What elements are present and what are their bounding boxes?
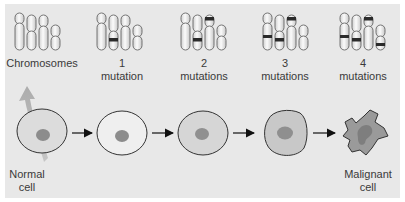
label-4-mutations: 4 mutations [323, 57, 403, 83]
label-normal-cell: Normal cell [2, 168, 52, 194]
label-3-mutations: 3 mutations [245, 57, 325, 83]
cell-stage-2 [178, 111, 228, 155]
chromosome-set-normal [15, 13, 60, 50]
chromosome-set-3-mutations [263, 13, 308, 50]
chromosome-set-1-mutation [97, 13, 142, 50]
label-malignant-cell: Malignant cell [336, 168, 400, 194]
chromosome-set-4-mutations [340, 13, 385, 50]
cell-malignant [343, 110, 388, 155]
cell-stage-1 [97, 111, 147, 155]
cell-normal [17, 109, 67, 153]
chromosome-set-2-mutations [181, 13, 226, 50]
label-2-mutations: 2 mutations [164, 57, 244, 83]
label-1-mutation: 1 mutation [82, 57, 162, 83]
label-chromosomes: Chromosomes [2, 57, 82, 70]
cell-stage-3 [265, 110, 307, 155]
